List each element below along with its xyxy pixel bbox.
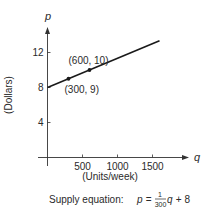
data-point-label: (300, 9) — [65, 84, 99, 95]
y-tick-label: 4 — [38, 117, 44, 128]
caption: Supply equation: p = 1 300 q + 8 — [49, 191, 190, 208]
caption-suffix: + 8 — [173, 194, 190, 205]
y-axis-arrow — [45, 27, 50, 34]
supply-chart: 500100015004812 (300, 9)(600, 10) p q (D… — [0, 0, 210, 215]
caption-numerator: 1 — [158, 191, 162, 198]
x-tick-label: 1000 — [106, 161, 129, 172]
data-point-label: (600, 10) — [68, 55, 108, 66]
caption-equals: = — [143, 194, 154, 205]
y-axis-label: (Dollars) — [3, 76, 14, 114]
x-axis-arrow — [182, 155, 189, 160]
caption-var-p: p — [136, 194, 143, 205]
x-axis-symbol: q — [194, 151, 201, 163]
points: (300, 9)(600, 10) — [65, 55, 109, 95]
x-axis-label: (Units/week) — [82, 171, 138, 182]
x-tick-label: 1500 — [141, 161, 164, 172]
x-tick-label: 500 — [74, 161, 91, 172]
caption-denominator: 300 — [155, 201, 167, 208]
y-axis-symbol: p — [44, 10, 51, 22]
caption-prefix: Supply equation: — [49, 194, 126, 205]
data-point — [67, 77, 71, 81]
y-tick-label: 12 — [32, 47, 44, 58]
axes — [38, 27, 189, 166]
data-point — [88, 68, 92, 72]
y-tick-label: 8 — [38, 82, 44, 93]
